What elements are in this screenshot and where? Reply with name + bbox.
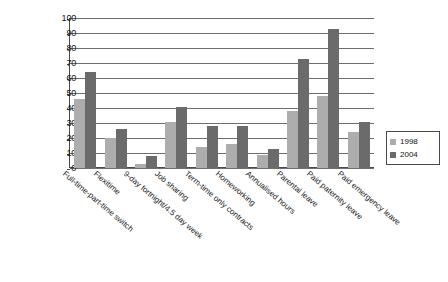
bar-group — [131, 18, 161, 168]
bar-1998 — [348, 132, 359, 168]
bar-1998 — [165, 122, 176, 169]
bar-group — [222, 18, 252, 168]
legend-swatch-1998 — [390, 139, 396, 145]
x-axis-category-labels: Full-time-part-time switchFlexitime9-day… — [70, 170, 374, 278]
bar-1998 — [105, 138, 116, 168]
bar-1998 — [257, 155, 268, 169]
legend-item-1998: 1998 — [390, 135, 436, 148]
legend-swatch-2004 — [390, 152, 396, 158]
bar-chart: 1009080706050403020100 Full-time-part-ti… — [0, 0, 448, 282]
bar-group — [192, 18, 222, 168]
bar-2004 — [146, 156, 157, 168]
bar-group — [161, 18, 191, 168]
bar-1998 — [74, 99, 85, 168]
bar-1998 — [196, 147, 207, 168]
bar-group — [344, 18, 374, 168]
bar-group — [70, 18, 100, 168]
bar-2004 — [298, 59, 309, 169]
bar-groups — [70, 18, 374, 168]
bar-2004 — [237, 126, 248, 168]
bar-2004 — [85, 72, 96, 168]
bar-2004 — [176, 107, 187, 169]
gridline-0 — [70, 168, 374, 169]
bar-1998 — [226, 144, 237, 168]
bar-1998 — [287, 111, 298, 168]
bar-group — [252, 18, 282, 168]
bar-1998 — [135, 164, 146, 169]
legend-label-1998: 1998 — [400, 138, 418, 146]
bar-2004 — [207, 126, 218, 168]
x-axis-label: Flexitime — [92, 170, 122, 197]
chart-legend: 1998 2004 — [386, 131, 440, 165]
bar-2004 — [328, 29, 339, 169]
bar-group — [100, 18, 130, 168]
x-axis-label: Paid paternity leave — [305, 170, 364, 221]
legend-label-2004: 2004 — [400, 151, 418, 159]
bar-group — [283, 18, 313, 168]
legend-item-2004: 2004 — [390, 148, 436, 161]
bar-2004 — [268, 149, 279, 169]
bar-2004 — [359, 122, 370, 169]
bar-1998 — [317, 96, 328, 168]
bar-2004 — [116, 129, 127, 168]
bar-group — [313, 18, 343, 168]
